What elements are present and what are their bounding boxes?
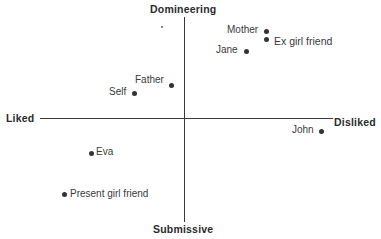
point-ex-girl-friend-label: Ex girl friend (274, 35, 332, 47)
point-ex-girl-friend-marker (264, 37, 269, 42)
point-mother-marker (264, 29, 269, 34)
axis-label-domineering: Domineering (150, 3, 216, 15)
point-eva-label: Eva (96, 146, 113, 157)
axis-label-submissive: Submissive (153, 223, 213, 235)
axis-label-disliked: Disliked (334, 116, 376, 128)
point-jane-marker (244, 49, 249, 54)
point-present-girl-friend-marker (62, 192, 67, 197)
point-john-label: John (292, 124, 314, 135)
horizontal-axis (40, 118, 333, 119)
point-present-girl-friend-label: Present girl friend (70, 188, 148, 199)
point-mother-label: Mother (227, 24, 258, 35)
point-eva-marker (89, 151, 94, 156)
speck (161, 26, 163, 28)
point-jane-label: Jane (216, 44, 238, 55)
vertical-axis (184, 17, 185, 222)
point-father-marker (169, 83, 174, 88)
point-father-label: Father (135, 74, 164, 85)
axis-label-liked: Liked (6, 112, 34, 124)
point-self-label: Self (109, 86, 126, 97)
point-self-marker (132, 91, 137, 96)
point-john-marker (319, 129, 324, 134)
